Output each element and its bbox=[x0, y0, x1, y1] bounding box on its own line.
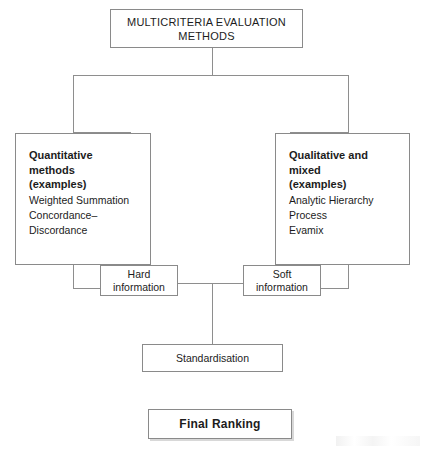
quantitative-title: Quantitative methods (examples) bbox=[29, 148, 137, 192]
list-item: Evamix bbox=[289, 223, 396, 238]
edge-to-standardisation bbox=[212, 283, 213, 344]
qualitative-title-line1: Qualitative and mixed bbox=[289, 148, 396, 177]
qualitative-title-line2: (examples) bbox=[289, 177, 396, 192]
list-item: Process bbox=[289, 208, 396, 223]
node-soft-information: Soft information bbox=[243, 265, 321, 296]
soft-information-label: Soft information bbox=[256, 268, 308, 294]
node-root-label-line1: MULTICRITERIA EVALUATION bbox=[127, 15, 286, 29]
node-qualitative-and-mixed-methods: Qualitative and mixed (examples) Analyti… bbox=[275, 133, 410, 265]
soft-information-label-line1: Soft bbox=[256, 268, 308, 281]
soft-information-label-line2: information bbox=[256, 281, 308, 294]
edge-left-branch-drop bbox=[73, 75, 74, 132]
node-root-label-line2: METHODS bbox=[127, 29, 286, 43]
node-hard-information: Hard information bbox=[100, 265, 178, 296]
standardisation-label: Standardisation bbox=[176, 352, 249, 364]
node-multicriteria-evaluation-methods: MULTICRITERIA EVALUATION METHODS bbox=[110, 9, 303, 48]
edge-split-bar bbox=[73, 75, 349, 76]
edge-root-stem bbox=[212, 48, 213, 76]
quantitative-title-line2: (examples) bbox=[29, 177, 137, 192]
node-standardisation: Standardisation bbox=[142, 344, 283, 372]
list-item: Weighted Summation bbox=[29, 193, 137, 208]
node-root-label: MULTICRITERIA EVALUATION METHODS bbox=[127, 15, 286, 43]
edge-right-branch-drop bbox=[348, 75, 349, 132]
node-final-ranking: Final Ranking bbox=[148, 409, 292, 439]
scan-artifact bbox=[336, 436, 420, 446]
list-item: Concordance– bbox=[29, 208, 137, 223]
hard-information-label-line2: information bbox=[113, 281, 165, 294]
hard-information-label-line1: Hard bbox=[113, 268, 165, 281]
node-quantitative-methods: Quantitative methods (examples) Weighted… bbox=[15, 133, 151, 265]
flowchart-diagram: MULTICRITERIA EVALUATION METHODS Quantit… bbox=[0, 0, 427, 454]
list-item: Discordance bbox=[29, 223, 137, 238]
final-ranking-label: Final Ranking bbox=[179, 417, 260, 431]
qualitative-title: Qualitative and mixed (examples) bbox=[289, 148, 396, 192]
edge-hard-to-soft-information bbox=[178, 283, 244, 284]
edge-quantitative-outflow-drop bbox=[73, 265, 74, 288]
list-item: Analytic Hierarchy bbox=[289, 193, 396, 208]
quantitative-title-line1: Quantitative methods bbox=[29, 148, 137, 177]
qualitative-example-list: Analytic Hierarchy Process Evamix bbox=[289, 193, 396, 238]
hard-information-label: Hard information bbox=[113, 268, 165, 294]
quantitative-example-list: Weighted Summation Concordance– Discorda… bbox=[29, 193, 137, 238]
edge-qualitative-outflow-drop bbox=[348, 265, 349, 288]
quantitative-content: Quantitative methods (examples) Weighted… bbox=[16, 134, 150, 238]
edge-qualitative-to-soft-information bbox=[320, 288, 349, 289]
qualitative-content: Qualitative and mixed (examples) Analyti… bbox=[276, 134, 409, 238]
edge-quantitative-to-hard-information bbox=[73, 288, 101, 289]
